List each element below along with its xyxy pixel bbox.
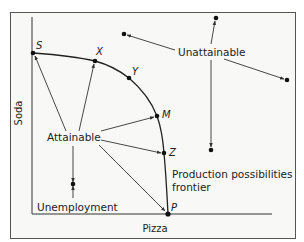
unemployment-label: Unemployment <box>37 201 118 213</box>
x-axis-label: Pizza <box>142 223 167 234</box>
label-y: Y <box>132 66 139 77</box>
point-unattainable-right <box>285 78 290 83</box>
ppf-diagram: Soda Pizza S X Y M Z P Attainable Unempl… <box>0 0 304 242</box>
attainable-label: Attainable <box>47 131 101 143</box>
label-p: P <box>171 202 178 213</box>
point-s <box>31 51 36 56</box>
frontier-label-line2: frontier <box>172 181 211 193</box>
point-x <box>93 59 98 64</box>
point-m <box>155 114 160 119</box>
label-z: Z <box>168 147 177 158</box>
y-axis-label: Soda <box>13 101 24 126</box>
point-z <box>162 151 167 156</box>
point-unemployment <box>71 182 76 187</box>
point-y <box>127 76 132 81</box>
label-m: M <box>162 109 171 120</box>
label-s: S <box>36 40 43 51</box>
frontier-label-line1: Production possibilities <box>172 168 293 180</box>
label-x: X <box>95 46 104 57</box>
point-unattainable-upper-left <box>122 32 127 37</box>
unattainable-label: Unattainable <box>178 46 246 58</box>
point-unattainable-lower <box>209 148 214 153</box>
point-p <box>165 211 170 216</box>
point-unattainable-top <box>214 16 219 21</box>
